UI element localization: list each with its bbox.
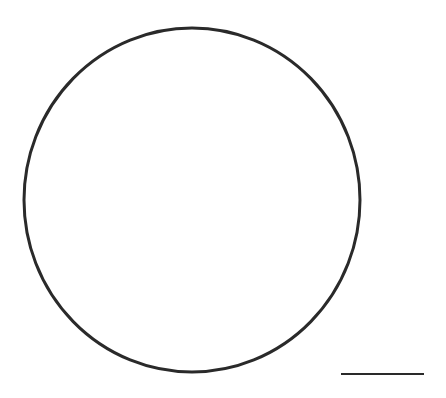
figure-canvas — [0, 0, 446, 398]
circle-outline — [24, 28, 360, 372]
